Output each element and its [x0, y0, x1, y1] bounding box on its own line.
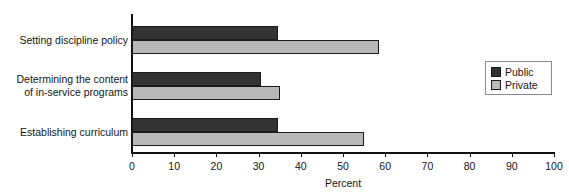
x-tick-label: 40 [281, 160, 321, 172]
x-tick-label: 80 [450, 160, 490, 172]
bar-private[interactable] [132, 86, 280, 100]
x-tick [554, 152, 555, 157]
bar-chart: 0102030405060708090100 Percent Setting d… [0, 0, 569, 194]
x-tick [470, 152, 471, 157]
category-label-line: Setting discipline policy [0, 34, 128, 47]
bar-private[interactable] [132, 132, 364, 146]
legend: Public Private [485, 61, 552, 95]
x-tick-label: 50 [323, 160, 363, 172]
bar-private[interactable] [132, 40, 379, 54]
category-label-line: of in-service programs [0, 86, 128, 99]
x-tick-label: 30 [239, 160, 279, 172]
legend-label-public: Public [505, 66, 534, 78]
bar-public[interactable] [132, 118, 278, 132]
x-tick-label: 0 [112, 160, 152, 172]
x-tick [259, 152, 260, 157]
bar-public[interactable] [132, 26, 278, 40]
legend-label-private: Private [505, 79, 538, 91]
x-tick [132, 152, 133, 157]
x-tick-label: 20 [196, 160, 236, 172]
x-tick-label: 60 [365, 160, 405, 172]
x-axis-title: Percent [132, 177, 554, 189]
x-tick-label: 70 [407, 160, 447, 172]
x-tick [427, 152, 428, 157]
legend-swatch-private-icon [491, 80, 501, 90]
x-tick [174, 152, 175, 157]
x-tick-label: 90 [492, 160, 532, 172]
x-tick-label: 100 [534, 160, 569, 172]
x-tick [385, 152, 386, 157]
x-tick [216, 152, 217, 157]
x-tick [512, 152, 513, 157]
category-label-line: Establishing curriculum [0, 126, 128, 139]
x-tick-label: 10 [154, 160, 194, 172]
category-label-line: Determining the content [0, 73, 128, 86]
x-tick [301, 152, 302, 157]
x-tick [343, 152, 344, 157]
legend-swatch-public-icon [491, 67, 501, 77]
bar-public[interactable] [132, 72, 261, 86]
